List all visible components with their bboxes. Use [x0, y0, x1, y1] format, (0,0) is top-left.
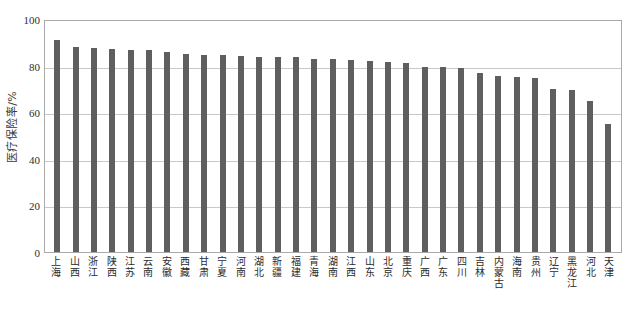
bar	[311, 59, 317, 252]
x-tick-label: 贵州	[530, 256, 542, 308]
x-tick-label: 广西	[419, 256, 431, 308]
bar	[532, 78, 538, 252]
bar	[477, 73, 483, 252]
x-tick-label: 新疆	[271, 256, 283, 308]
bar	[109, 49, 115, 252]
y-tick-label: 20	[10, 200, 40, 212]
bar	[128, 50, 134, 252]
x-tick-label: 河北	[585, 256, 597, 308]
bar	[550, 89, 556, 252]
y-tick-label: 40	[10, 154, 40, 166]
bar	[348, 60, 354, 252]
y-tick-label: 60	[10, 107, 40, 119]
x-tick-label: 天津	[603, 256, 615, 308]
bar	[495, 76, 501, 252]
bar	[440, 67, 446, 252]
bar	[569, 90, 575, 252]
x-tick-label: 重庆	[401, 256, 413, 308]
y-tick-label: 100	[10, 14, 40, 26]
x-tick-label: 山东	[364, 256, 376, 308]
y-tick-label: 80	[10, 61, 40, 73]
x-tick-label: 浙江	[87, 256, 99, 308]
bar	[54, 40, 60, 252]
bar	[164, 52, 170, 252]
x-tick-label: 海南	[511, 256, 523, 308]
bar	[201, 55, 207, 252]
x-axis-tick-labels: 上海山西浙江陕西江苏云南安徽西藏甘肃宁夏河南湖北新疆福建青海湖南江西山东北京重庆…	[44, 256, 622, 308]
bar	[587, 101, 593, 252]
x-tick-label: 江苏	[124, 256, 136, 308]
bar	[183, 54, 189, 252]
x-tick-label: 上海	[50, 256, 62, 308]
bar	[385, 62, 391, 252]
x-tick-label: 广东	[437, 256, 449, 308]
x-tick-label: 黑龙江	[566, 256, 578, 308]
x-tick-label: 安徽	[161, 256, 173, 308]
bar	[422, 67, 428, 252]
x-tick-label: 北京	[382, 256, 394, 308]
x-tick-label: 福建	[290, 256, 302, 308]
bar	[293, 57, 299, 252]
bar-series	[45, 21, 621, 252]
bar-chart: 医疗保险率/% 020406080100 上海山西浙江陕西江苏云南安徽西藏甘肃宁…	[0, 0, 626, 309]
x-tick-label: 甘肃	[198, 256, 210, 308]
x-tick-label: 西藏	[179, 256, 191, 308]
x-tick-label: 吉林	[474, 256, 486, 308]
bar	[256, 57, 262, 252]
x-tick-label: 湖北	[253, 256, 265, 308]
x-tick-label: 内蒙古	[493, 256, 505, 308]
plot-area	[44, 20, 622, 253]
bar	[403, 63, 409, 252]
bar	[605, 124, 611, 252]
bar	[458, 68, 464, 252]
bar	[275, 57, 281, 252]
x-tick-label: 青海	[308, 256, 320, 308]
x-tick-label: 云南	[142, 256, 154, 308]
x-tick-label: 山西	[69, 256, 81, 308]
bar	[238, 56, 244, 252]
x-tick-label: 陕西	[106, 256, 118, 308]
x-tick-label: 湖南	[327, 256, 339, 308]
x-tick-label: 辽宁	[548, 256, 560, 308]
x-tick-label: 河南	[235, 256, 247, 308]
y-axis-tick-labels: 020406080100	[8, 0, 40, 253]
bar	[367, 61, 373, 252]
x-tick-label: 宁夏	[216, 256, 228, 308]
y-tick-label: 0	[10, 247, 40, 259]
bar	[220, 55, 226, 252]
bar	[330, 59, 336, 252]
x-tick-label: 江西	[345, 256, 357, 308]
bar	[91, 48, 97, 252]
bar	[146, 50, 152, 252]
bar	[73, 47, 79, 252]
x-tick-label: 四川	[456, 256, 468, 308]
bar	[514, 77, 520, 252]
